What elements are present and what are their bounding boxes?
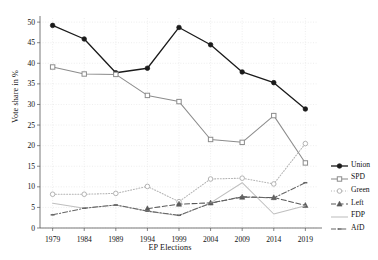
series-left: [145, 194, 308, 210]
legend-label: AfD: [351, 223, 365, 232]
legend-item-left[interactable]: Left: [330, 196, 378, 209]
legend-label: SPD: [351, 172, 365, 181]
legend-key-afd-icon: [330, 221, 349, 233]
svg-text:35: 35: [27, 79, 35, 88]
legend-item-green[interactable]: Green: [330, 183, 378, 196]
svg-text:25: 25: [27, 121, 35, 130]
line-chart: 05101520253035404550 1979198419891994199…: [0, 0, 378, 260]
x-axis-label: EP Elections: [0, 243, 340, 252]
legend-item-union[interactable]: Union: [330, 158, 378, 171]
legend-key-green-icon: [330, 183, 349, 195]
svg-text:45: 45: [27, 38, 35, 47]
svg-text:30: 30: [27, 100, 35, 109]
svg-text:10: 10: [27, 182, 35, 191]
legend-label: Green: [351, 185, 370, 194]
legend: UnionSPDGreenLeftFDPAfD: [330, 158, 378, 234]
legend-item-fdp[interactable]: FDP: [330, 208, 378, 221]
legend-item-spd[interactable]: SPD: [330, 171, 378, 184]
svg-text:50: 50: [27, 18, 35, 27]
plot-area: 05101520253035404550 1979198419891994199…: [0, 0, 378, 260]
legend-label: Union: [351, 160, 370, 169]
legend-key-left-icon: [330, 196, 349, 208]
legend-item-afd[interactable]: AfD: [330, 221, 378, 234]
legend-key-union-icon: [330, 158, 349, 170]
svg-text:40: 40: [27, 59, 35, 68]
legend-label: Left: [351, 198, 364, 207]
svg-text:20: 20: [27, 141, 35, 150]
y-axis-label: Vote share in %: [11, 52, 20, 142]
legend-key-fdp-icon: [330, 209, 349, 221]
y-axis-ticks: 05101520253035404550: [27, 18, 40, 233]
svg-text:0: 0: [31, 224, 35, 233]
legend-key-spd-icon: [330, 171, 349, 183]
x-axis-ticks: 197919841989199419992004200920142019: [45, 228, 313, 244]
legend-label: FDP: [351, 210, 365, 219]
svg-text:15: 15: [27, 162, 35, 171]
svg-text:5: 5: [31, 203, 35, 212]
